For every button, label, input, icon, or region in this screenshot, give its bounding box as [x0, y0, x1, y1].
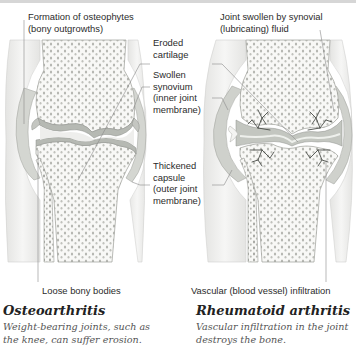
- label-swollen-synovium: Swollen synovium (inner joint membrane): [153, 69, 201, 115]
- label-loose-bodies: Loose bony bodies: [42, 285, 121, 297]
- label-joint-swollen: Joint swollen by synovial (lubricating) …: [220, 11, 323, 34]
- label-eroded-cartilage: Eroded cartilage: [153, 37, 188, 60]
- osteophyte: [32, 118, 40, 130]
- femur-bone: [36, 40, 135, 132]
- rheumatoid-joint: [204, 40, 353, 262]
- osteoarthritis-description: Weight-bearing joints, such as the knee,…: [3, 320, 150, 346]
- label-osteophytes: Formation of osteophytes (bony outgrowth…: [28, 11, 134, 34]
- rheumatoid-title: Rheumatoid arthritis: [196, 303, 350, 318]
- label-thickened-capsule: Thickened capsule (outer joint membrane): [153, 160, 201, 206]
- osteoarthritis-joint: [5, 40, 146, 262]
- label-vascular: Vascular (blood vessel) infiltration: [191, 285, 330, 297]
- rheumatoid-description: Vascular infiltration in the joint destr…: [196, 320, 348, 346]
- osteoarthritis-title: Osteoarthritis: [3, 303, 105, 318]
